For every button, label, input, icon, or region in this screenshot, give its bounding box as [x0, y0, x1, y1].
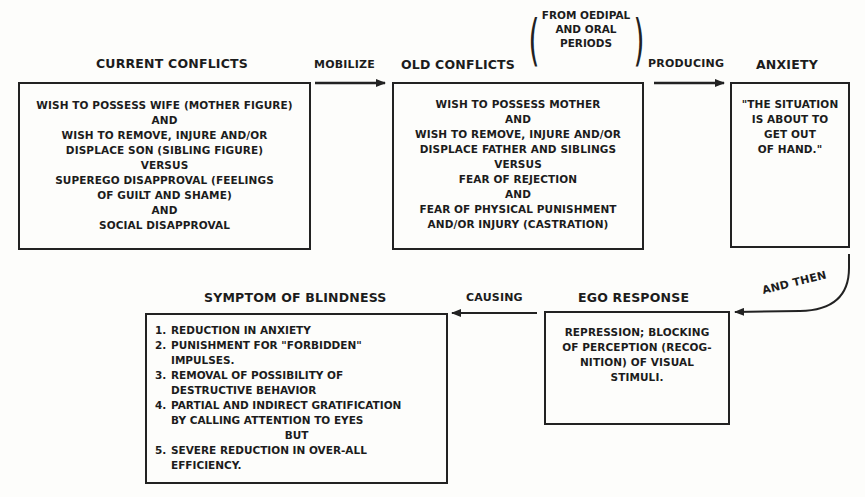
old-conflicts-box: WISH TO POSSESS MOTHER AND WISH TO REMOV… [392, 82, 644, 250]
box-line: WISH TO POSSESS MOTHER [394, 97, 642, 112]
list-item: 5. SEVERE REDUCTION IN OVER-ALL EFFICIEN… [151, 443, 442, 473]
current-conflicts-box: WISH TO POSSESS WIFE (MOTHER FIGURE) AND… [18, 82, 311, 250]
but-label: BUT [151, 428, 442, 443]
anxiety-box: "THE SITUATION IS ABOUT TO GET OUT OF HA… [730, 82, 850, 248]
item-number: 4. [155, 398, 166, 413]
anxiety-title: ANXIETY [756, 57, 818, 72]
item-line: SEVERE REDUCTION IN OVER-ALL [171, 443, 442, 458]
box-line: GET OUT [732, 127, 848, 142]
box-line: AND [394, 187, 642, 202]
list-item: 3. REMOVAL OF POSSIBILITY OF DESTRUCTIVE… [151, 368, 442, 398]
box-line: WISH TO POSSESS WIFE (MOTHER FIGURE) [20, 98, 309, 113]
box-line: SOCIAL DISAPPROVAL [20, 218, 309, 233]
current-conflicts-title: CURRENT CONFLICTS [96, 56, 248, 71]
old-conflicts-note: FROM OEDIPAL AND ORAL PERIODS [534, 8, 638, 50]
box-line: OF HAND." [732, 142, 848, 157]
box-line: AND [20, 203, 309, 218]
note-line: PERIODS [534, 36, 638, 50]
old-conflicts-title: OLD CONFLICTS [401, 57, 515, 72]
symptom-title: SYMPTOM OF BLINDNESS [204, 290, 387, 305]
close-paren-icon: ) [633, 12, 644, 68]
note-line: AND ORAL [534, 22, 638, 36]
box-line: AND [394, 112, 642, 127]
list-item: 4. PARTIAL AND INDIRECT GRATIFICATION BY… [151, 398, 442, 428]
item-number: 1. [155, 323, 166, 338]
list-item: 2. PUNISHMENT FOR "FORBIDDEN" IMPULSES. [151, 338, 442, 368]
item-line: PARTIAL AND INDIRECT GRATIFICATION [171, 398, 442, 413]
edge-label-causing: CAUSING [466, 291, 523, 304]
item-line: IMPULSES. [171, 353, 442, 368]
edge-label-mobilize: MOBILIZE [314, 58, 375, 71]
box-line: FEAR OF PHYSICAL PUNISHMENT [394, 202, 642, 217]
box-line: REPRESSION; BLOCKING [546, 325, 728, 340]
edge-label-producing: PRODUCING [648, 57, 724, 70]
item-line: DESTRUCTIVE BEHAVIOR [171, 383, 442, 398]
item-line: REMOVAL OF POSSIBILITY OF [171, 368, 442, 383]
box-line: AND/OR INJURY (CASTRATION) [394, 217, 642, 232]
ego-response-title: EGO RESPONSE [578, 290, 689, 305]
symptom-box: 1. REDUCTION IN ANXIETY 2. PUNISHMENT FO… [145, 313, 448, 484]
box-line: WISH TO REMOVE, INJURE AND/OR [394, 127, 642, 142]
box-line: VERSUS [394, 157, 642, 172]
note-line: FROM OEDIPAL [534, 8, 638, 22]
box-line: FEAR OF REJECTION [394, 172, 642, 187]
box-line: DISPLACE SON (SIBLING FIGURE) [20, 143, 309, 158]
item-number: 5. [155, 443, 166, 458]
box-line: "THE SITUATION [732, 97, 848, 112]
symptom-list: 1. REDUCTION IN ANXIETY 2. PUNISHMENT FO… [151, 323, 442, 473]
ego-response-box: REPRESSION; BLOCKING OF PERCEPTION (RECO… [544, 311, 730, 425]
box-line: OF PERCEPTION (RECOG- [546, 340, 728, 355]
item-number: 2. [155, 338, 166, 353]
box-line: SUPEREGO DISAPPROVAL (FEELINGS [20, 173, 309, 188]
box-line: WISH TO REMOVE, INJURE AND/OR [20, 128, 309, 143]
item-line: PUNISHMENT FOR "FORBIDDEN" [171, 338, 442, 353]
box-line: AND [20, 113, 309, 128]
item-line: REDUCTION IN ANXIETY [171, 323, 442, 338]
box-line: VERSUS [20, 158, 309, 173]
item-line: BY CALLING ATTENTION TO EYES [171, 413, 442, 428]
item-line: EFFICIENCY. [171, 458, 442, 473]
box-line: STIMULI. [546, 370, 728, 385]
list-item: 1. REDUCTION IN ANXIETY [151, 323, 442, 338]
box-line: OF GUILT AND SHAME) [20, 188, 309, 203]
box-line: IS ABOUT TO [732, 112, 848, 127]
box-line: NITION) OF VISUAL [546, 355, 728, 370]
box-line: DISPLACE FATHER AND SIBLINGS [394, 142, 642, 157]
item-number: 3. [155, 368, 166, 383]
